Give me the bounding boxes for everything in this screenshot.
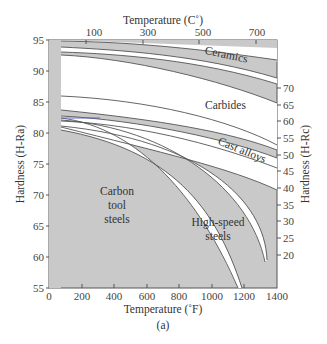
x-tick-1000: 1000 (201, 290, 224, 302)
label-carbon-tool-steels-1: Carbon (100, 185, 134, 197)
y2-tick-25: 25 (283, 232, 295, 244)
y2-tick-65: 65 (283, 99, 295, 111)
label-carbon-tool-steels-3: steels (104, 213, 130, 225)
y2-tick-50: 50 (283, 149, 295, 161)
label-high-speed-steels-1: High-speed (191, 216, 244, 229)
y-tick-65: 65 (33, 220, 45, 232)
y2-tick-35: 35 (283, 199, 295, 211)
y2-tick-45: 45 (283, 165, 295, 177)
y-tick-95: 95 (33, 34, 45, 46)
y2-tick-55: 55 (283, 132, 295, 144)
y2-tick-60: 60 (283, 115, 295, 127)
y-axis-title: Hardness (H-Ra) (14, 125, 27, 203)
x-tick-1400: 1400 (266, 290, 289, 302)
x-tick-0: 0 (46, 290, 52, 302)
y2-tick-70: 70 (283, 82, 295, 94)
y-tick-85: 85 (33, 96, 45, 108)
y-tick-60: 60 (33, 251, 45, 263)
y-tick-90: 90 (33, 65, 45, 77)
x2-axis-title: Temperature (C˚) (123, 14, 203, 27)
y2-axis-title: Hardness (H-Rc) (299, 125, 312, 203)
hardness-temperature-chart: 95 90 85 80 75 70 65 60 55 Hardness (H-R… (0, 0, 327, 344)
left-strip (49, 40, 61, 288)
label-high-speed-steels-2: steels (205, 230, 231, 242)
y-tick-70: 70 (33, 189, 45, 201)
x-tick-800: 800 (171, 290, 188, 302)
x-tick-400: 400 (106, 290, 123, 302)
y2-tick-20: 20 (283, 249, 295, 261)
y-tick-80: 80 (33, 127, 45, 139)
x-tick-1200: 1200 (233, 290, 256, 302)
x-tick-600: 600 (139, 290, 156, 302)
label-carbides: Carbides (205, 99, 246, 111)
y2-tick-30: 30 (283, 215, 295, 227)
x2-tick-300: 300 (140, 26, 157, 38)
x-axis-title: Temperature (˚F) (124, 303, 203, 316)
x2-tick-100: 100 (86, 26, 103, 38)
x-tick-200: 200 (74, 290, 91, 302)
label-carbon-tool-steels-2: tool (108, 199, 126, 211)
y2-tick-40: 40 (283, 182, 295, 194)
y-axis-right: 70 65 60 55 50 45 40 35 30 25 20 (277, 82, 295, 261)
x2-tick-500: 500 (195, 26, 212, 38)
y-tick-55: 55 (33, 282, 45, 294)
figure-caption: (a) (157, 319, 170, 332)
y-tick-75: 75 (33, 158, 45, 170)
x2-tick-700: 700 (249, 26, 266, 38)
y-axis-left: 95 90 85 80 75 70 65 60 55 (33, 34, 49, 294)
